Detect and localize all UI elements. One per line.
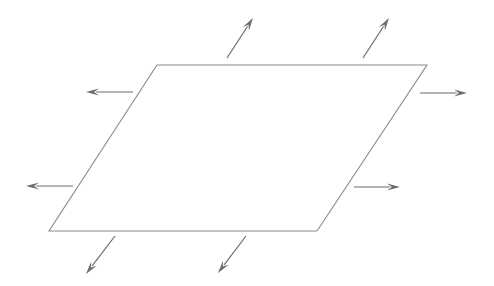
figure-background (0, 0, 494, 286)
parallelogram-diagram-svg (0, 0, 494, 286)
figure-root (0, 0, 494, 286)
